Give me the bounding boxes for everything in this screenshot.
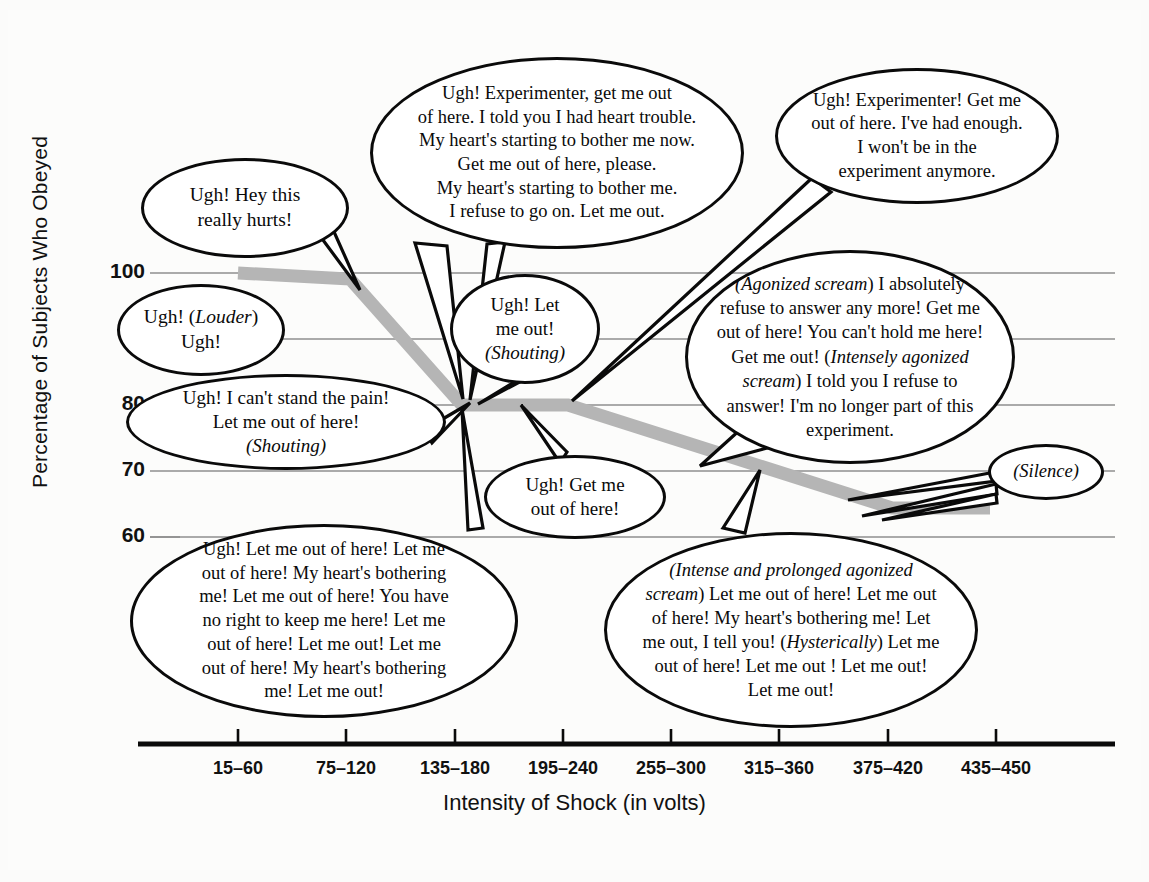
bubble-experimenter-line6: I refuse to go on. Let me out. [418,200,696,224]
y-axis-title: Percentage of Subjects Who Obeyed [28,102,52,522]
bubble-had-enough-line2: out of here. I've had enough. [811,112,1022,136]
bubble-hey-hurts-line1: Ugh! Hey this [190,183,301,208]
bubble-hey-hurts: Ugh! Hey this really hurts! [141,158,349,258]
bubble-louder: Ugh! (Louder) Ugh! [117,284,285,376]
xtick-label-8: 435–450 [936,758,1056,779]
xtick-label-5: 255–300 [611,758,731,779]
bubble-silence-text: (Silence) [1013,461,1079,481]
bubble-big-left-line5: out of here! Let me out! Let me [199,633,449,657]
xtick-label-2: 75–120 [286,758,406,779]
bubble-big-left-line6: out of here! My heart's bothering [199,657,449,681]
bubble-experimenter-long: Ugh! Experimenter, get me out of here. I… [370,57,744,249]
xtick-label-3: 135–180 [395,758,515,779]
bubble-experimenter-line3: My heart's starting to bother me now. [418,129,696,153]
bubble-big-right-p2-italic: Hysterically [786,632,876,652]
bubble-big-left-line1: Ugh! Let me out of here! Let me [199,538,449,562]
xtick-label-4: 195–240 [503,758,623,779]
bubble-silence: (Silence) [988,444,1104,500]
bubble-let-me-out-line2: me out! [485,317,565,341]
bubble-big-left: Ugh! Let me out of here! Let me out of h… [130,524,518,718]
bubble-cant-stand-pain: Ugh! I can't stand the pain! Let me out … [126,374,446,470]
bubble-had-enough-line4: experiment anymore. [811,160,1022,184]
bubble-experimenter-line5: My heart's starting to bother me. [418,177,696,201]
bubble-cant-stand-line3: (Shouting) [183,434,390,458]
bubble-had-enough: Ugh! Experimenter! Get me out of here. I… [775,68,1059,204]
bubble-big-left-line3: me! Let me out of here! You have [199,585,449,609]
ytick-label-70: 70 [85,457,145,481]
bubble-agonized-p1-italic: (Agonized scream [735,274,867,294]
xtick-label-1: 15–60 [178,758,298,779]
bubble-cant-stand-line2: Let me out of here! [183,410,390,434]
bubble-had-enough-line3: I won't be in the [811,136,1022,160]
bubble-big-left-line4: no right to keep me here! Let me [199,609,449,633]
bubble-had-enough-line1: Ugh! Experimenter! Get me [811,89,1022,113]
bubble-experimenter-line1: Ugh! Experimenter, get me out [418,82,696,106]
bubble-let-me-out-line3: (Shouting) [485,341,565,365]
ytick-label-100: 100 [85,259,145,283]
bubble-big-left-line7: me! Let me out! [199,680,449,704]
bubble-hey-hurts-line2: really hurts! [190,208,301,233]
bubble-experimenter-line4: Get me out of here, please. [418,153,696,177]
x-axis-title: Intensity of Shock (in volts) [0,790,1149,816]
bubble-get-me-out-line1: Ugh! Get me [525,473,624,497]
bubble-agonized-scream: (Agonized scream) I absolutely refuse to… [685,250,1015,464]
bubble-experimenter-line2: of here. I told you I had heart trouble. [418,106,696,130]
bubble-let-me-out-line1: Ugh! Let [485,293,565,317]
bubble-louder-line2: Ugh! [144,330,258,355]
ytick-label-60: 60 [85,523,145,547]
bubble-get-me-out: Ugh! Get me out of here! [484,455,666,539]
bubble-louder-line1: Ugh! (Louder) [144,305,258,330]
xtick-label-7: 375–420 [828,758,948,779]
bubble-get-me-out-line2: out of here! [525,497,624,521]
bubble-big-right: (Intense and prolonged agonized scream) … [604,532,978,728]
chart-page: 100 90 80 70 60 15–60 75–120 135–180 195… [0,0,1149,882]
xtick-label-6: 315–360 [719,758,839,779]
bubble-let-me-out-shouting: Ugh! Let me out! (Shouting) [450,274,600,384]
bubble-cant-stand-line1: Ugh! I can't stand the pain! [183,386,390,410]
bubble-big-left-line2: out of here! My heart's bothering [199,562,449,586]
